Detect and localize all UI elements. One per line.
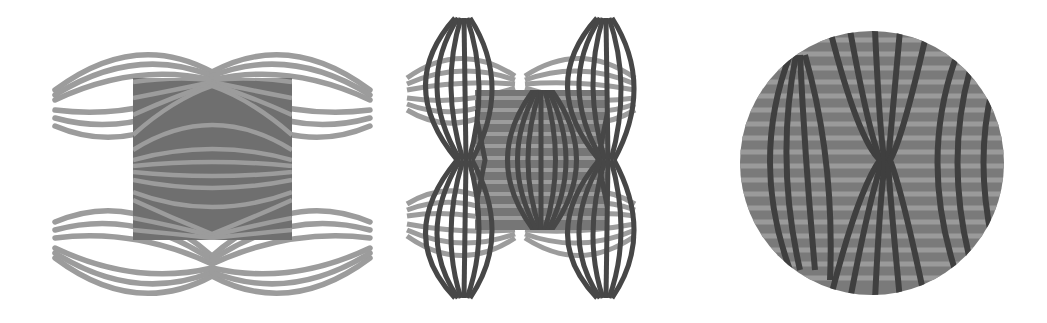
panel-3-graphic (730, 0, 1030, 323)
panel-3-illusion-figure (730, 0, 1030, 323)
panel-2-illusion-figure (395, 0, 655, 323)
panel-1-illusion-figure (0, 0, 400, 323)
panel-1-graphic (0, 0, 400, 323)
panel-2-graphic (395, 0, 655, 323)
panel-3-pattern (730, 30, 1030, 300)
panel-3-disc (740, 31, 1004, 295)
